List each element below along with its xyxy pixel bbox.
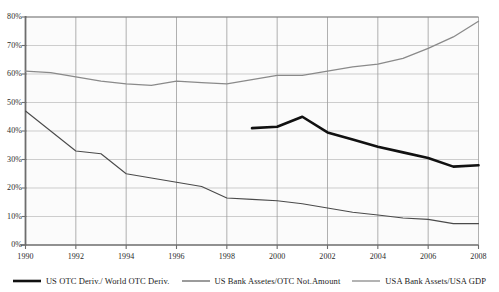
y-tick-label: 20% — [0, 183, 22, 192]
chart-legend: US OTC Deriv./ World OTC Deriv.US Bank A… — [0, 270, 499, 292]
legend-swatch-line-icon — [182, 277, 210, 285]
x-tick-label: 1996 — [160, 252, 194, 261]
legend-swatch-line-icon — [352, 277, 380, 285]
y-tick-label: 10% — [0, 212, 22, 221]
legend-label: USA Bank Assets/USA GDP — [385, 276, 486, 286]
y-tick-label: 30% — [0, 155, 22, 164]
legend-label: US Bank Assetes/OTC Not.Amount — [215, 276, 341, 286]
gridlines — [26, 17, 479, 245]
legend-item-3[interactable]: USA Bank Assets/USA GDP — [352, 276, 486, 286]
x-tick-label: 1994 — [109, 252, 143, 261]
legend-swatch-line-icon — [13, 277, 41, 285]
x-tick-label: 2000 — [260, 252, 294, 261]
legend-item-2[interactable]: US Bank Assetes/OTC Not.Amount — [182, 276, 341, 286]
legend-label: US OTC Deriv./ World OTC Deriv. — [46, 276, 170, 286]
x-tick-label: 1998 — [210, 252, 244, 261]
chart-container: 0%10%20%30%40%50%60%70%80% 1990199219941… — [0, 0, 499, 292]
legend-item-1[interactable]: US OTC Deriv./ World OTC Deriv. — [13, 276, 170, 286]
y-tick-label: 40% — [0, 126, 22, 135]
x-tick-label: 2004 — [361, 252, 395, 261]
y-tick-label: 0% — [0, 240, 22, 249]
x-tick-label: 1990 — [9, 252, 43, 261]
x-tick-label: 2006 — [411, 252, 445, 261]
x-tick-label: 1992 — [59, 252, 93, 261]
x-tick-label: 2008 — [462, 252, 496, 261]
line-chart-plot — [0, 0, 499, 292]
y-tick-label: 80% — [0, 12, 22, 21]
y-tick-label: 60% — [0, 69, 22, 78]
y-tick-label: 50% — [0, 98, 22, 107]
y-tick-label: 70% — [0, 41, 22, 50]
x-tick-label: 2002 — [311, 252, 345, 261]
